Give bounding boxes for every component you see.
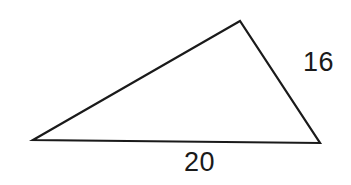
triangle-shape bbox=[0, 0, 351, 185]
right-side-length-label: 16 bbox=[303, 49, 334, 76]
triangle-outline bbox=[33, 21, 320, 143]
bottom-side-length-label: 20 bbox=[184, 149, 215, 176]
triangle-diagram: 16 20 bbox=[0, 0, 351, 185]
